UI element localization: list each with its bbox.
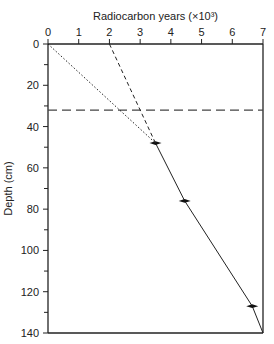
series-extrapolation-to-surface xyxy=(48,44,156,143)
y-tick-label: 120 xyxy=(21,286,39,298)
y-tick-label: 0 xyxy=(33,38,39,50)
data-point-marker xyxy=(150,141,162,145)
y-tick-label: 60 xyxy=(27,162,39,174)
y-tick-label: 80 xyxy=(27,203,39,215)
x-tick-label: 7 xyxy=(260,26,266,38)
data-point-marker xyxy=(246,304,258,308)
y-tick-label: 40 xyxy=(27,121,39,133)
data-point-marker xyxy=(179,199,191,203)
x-axis-label: Radiocarbon years (×10³) xyxy=(93,10,218,22)
y-tick-label: 140 xyxy=(21,327,39,339)
x-tick-label: 1 xyxy=(76,26,82,38)
y-tick-label: 20 xyxy=(27,79,39,91)
x-tick-label: 5 xyxy=(199,26,205,38)
y-tick-label: 100 xyxy=(21,244,39,256)
y-axis-label: Depth (cm) xyxy=(2,161,14,215)
series-alternative-extrapolation xyxy=(109,44,155,143)
x-tick-label: 3 xyxy=(137,26,143,38)
x-tick-label: 6 xyxy=(229,26,235,38)
chart: 01234567020406080100120140Radiocarbon ye… xyxy=(0,0,274,344)
x-tick-label: 0 xyxy=(45,26,51,38)
x-tick-label: 4 xyxy=(168,26,174,38)
x-tick-label: 2 xyxy=(106,26,112,38)
series-dated-profile xyxy=(156,143,264,333)
